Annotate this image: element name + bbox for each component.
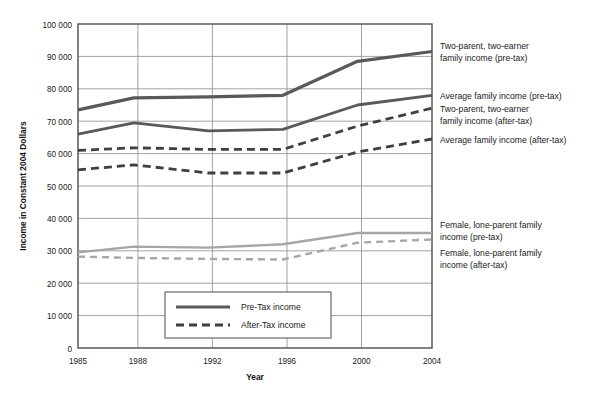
y-tick-70000: 70 000	[47, 118, 72, 127]
y-tick-30000: 30 000	[47, 247, 72, 256]
x-tick-1985: 1985	[69, 357, 88, 366]
callout-average-aftertax: Average family income (after-tax)	[440, 135, 567, 145]
y-tick-20000: 20 000	[47, 280, 72, 289]
income-line-chart: 100 000 90 000 80 000 70 000 60 000 50 0…	[0, 0, 606, 402]
legend: Pre-Tax income After-Tax income	[165, 292, 331, 338]
legend-label-pre-tax: Pre-Tax income	[241, 302, 301, 312]
legend-label-after-tax: After-Tax income	[241, 320, 306, 330]
callout-two-parent-pretax: Two-parent, two-earner family income (pr…	[440, 41, 529, 63]
x-tick-2000: 2000	[352, 357, 371, 366]
y-axis-tick-labels: 100 000 90 000 80 000 70 000 60 000 50 0…	[42, 21, 72, 354]
y-tick-10000: 10 000	[47, 312, 72, 321]
y-tick-100000: 100 000	[42, 21, 72, 30]
callout-lone-parent-pretax-line2: income (pre-tax)	[440, 232, 503, 242]
legend-box	[165, 292, 331, 338]
callout-two-parent-aftertax: Two-parent, two-earner family income (af…	[440, 104, 532, 126]
callout-lone-parent-pretax-line1: Female, lone-parent family	[440, 220, 542, 230]
callout-two-parent-pretax-line2: family income (pre-tax)	[440, 53, 528, 63]
callout-average-pretax: Average family income (pre-tax)	[440, 91, 562, 101]
x-tick-1988: 1988	[129, 357, 148, 366]
callout-two-parent-aftertax-line2: family income (after-tax)	[440, 116, 532, 126]
chart-figure: 100 000 90 000 80 000 70 000 60 000 50 0…	[0, 0, 606, 402]
callout-lone-parent-aftertax: Female, lone-parent family income (after…	[440, 248, 542, 270]
x-axis-title: Year	[246, 372, 264, 382]
x-tick-1996: 1996	[278, 357, 297, 366]
x-axis-tick-labels: 1985 1988 1992 1996 2000 2004	[69, 357, 442, 366]
x-tick-1992: 1992	[203, 357, 222, 366]
y-tick-50000: 50 000	[47, 183, 72, 192]
callout-lone-parent-aftertax-line1: Female, lone-parent family	[440, 248, 542, 258]
y-tick-80000: 80 000	[47, 85, 72, 94]
callout-lone-parent-aftertax-line2: income (after-tax)	[440, 260, 507, 270]
callout-two-parent-pretax-line1: Two-parent, two-earner	[440, 41, 529, 51]
callout-average-pretax-line1: Average family income (pre-tax)	[440, 91, 562, 101]
y-tick-0: 0	[67, 345, 72, 354]
x-tick-2004: 2004	[423, 357, 442, 366]
callout-lone-parent-pretax: Female, lone-parent family income (pre-t…	[440, 220, 542, 242]
callout-average-aftertax-line1: Average family income (after-tax)	[440, 135, 567, 145]
series-callouts: Two-parent, two-earner family income (pr…	[440, 41, 567, 270]
y-tick-90000: 90 000	[47, 53, 72, 62]
y-tick-40000: 40 000	[47, 215, 72, 224]
y-tick-60000: 60 000	[47, 150, 72, 159]
y-axis-title: Income in Constant 2004 Dollars	[18, 121, 28, 251]
callout-two-parent-aftertax-line1: Two-parent, two-earner	[440, 104, 529, 114]
